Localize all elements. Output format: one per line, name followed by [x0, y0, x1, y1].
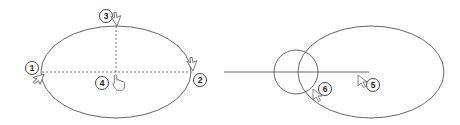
callout-4-label: 4	[100, 78, 105, 88]
left-ellipse-group: 1 2 3 4	[26, 10, 207, 119]
callout-2-label: 2	[198, 75, 203, 85]
callout-5-label: 5	[371, 80, 376, 90]
callout-6: 6	[319, 83, 332, 96]
callout-2: 2	[194, 74, 207, 87]
callout-1-label: 1	[30, 63, 35, 73]
diagram-canvas: 1 2 3 4 5	[0, 0, 460, 125]
callout-4: 4	[96, 77, 109, 90]
hand-cursor-icon	[113, 75, 125, 90]
callout-6-label: 6	[323, 84, 328, 94]
arrow-cursor-icon	[358, 75, 367, 88]
right-ellipse-group: 5 6	[224, 26, 444, 118]
callout-1: 1	[26, 62, 39, 75]
callout-3-label: 3	[104, 11, 109, 21]
callout-5: 5	[367, 79, 380, 92]
